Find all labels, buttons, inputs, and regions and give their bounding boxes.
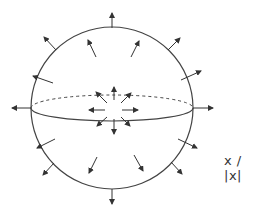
surface-arrows	[12, 13, 213, 204]
sphere-outline	[31, 27, 193, 189]
center-arrows	[89, 87, 138, 134]
vector-field-label: x / |x|	[224, 153, 264, 183]
equator-ellipse	[31, 95, 193, 121]
